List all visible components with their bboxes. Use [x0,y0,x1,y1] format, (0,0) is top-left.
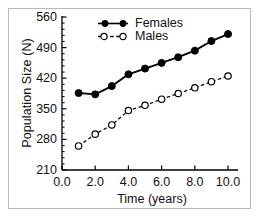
legend-label-males: Males [130,29,168,43]
y-tick-label: 210 [23,164,57,176]
y-tick-label: 490 [23,42,57,54]
y-tick-label: 420 [23,72,57,84]
legend-item-males: Males [96,29,206,42]
x-tick-label: 8.0 [178,176,212,188]
y-tick-label: 560 [23,11,57,23]
x-tick-label: 4.0 [111,176,145,188]
y-tick-label: 280 [23,133,57,145]
legend-label-females: Females [130,16,183,30]
chart-legend: Females Males [96,16,206,42]
series-males-line [75,73,231,149]
x-tick-label: 0.0 [45,176,79,188]
legend-item-females: Females [96,16,206,29]
x-tick-label: 10.0 [211,176,245,188]
x-tick-label: 2.0 [78,176,112,188]
chart-figure: Population Size (N) Time (years) 2102803… [0,0,259,218]
legend-marker-filled-circle-icon [96,16,130,29]
legend-marker-open-circle-icon [96,29,130,42]
y-tick-label: 350 [23,103,57,115]
x-tick-label: 6.0 [145,176,179,188]
